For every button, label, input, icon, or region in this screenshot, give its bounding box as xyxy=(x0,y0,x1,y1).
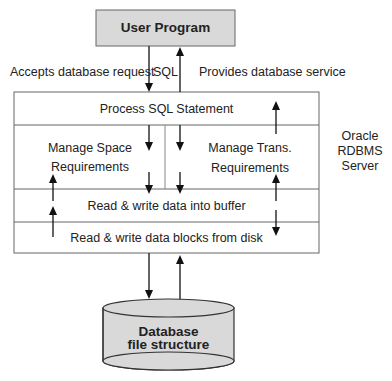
server-name-line1: Oracle xyxy=(330,129,390,143)
manage-space-line1: Manage Space xyxy=(40,141,140,155)
process-sql-label: Process SQL Statement xyxy=(14,102,319,116)
arrow-down-to-database xyxy=(145,253,153,299)
arrow-up-from-database xyxy=(176,255,184,301)
sql-label: SQL xyxy=(153,65,178,79)
provides-service-label: Provides database service xyxy=(199,65,346,79)
server-name-line3: Server xyxy=(330,159,390,173)
manage-space-line2: Requirements xyxy=(40,160,140,174)
manage-trans-line1: Manage Trans. xyxy=(200,141,300,155)
accepts-request-label: Accepts database request xyxy=(10,65,155,79)
buffer-label: Read & write data into buffer xyxy=(14,199,319,213)
disk-label: Read & write data blocks from disk xyxy=(14,231,319,245)
user-program-label: User Program xyxy=(96,21,235,35)
database-label-line2: file structure xyxy=(103,338,234,352)
server-name-line2: RDBMS xyxy=(330,144,390,158)
manage-trans-line2: Requirements xyxy=(200,161,300,175)
